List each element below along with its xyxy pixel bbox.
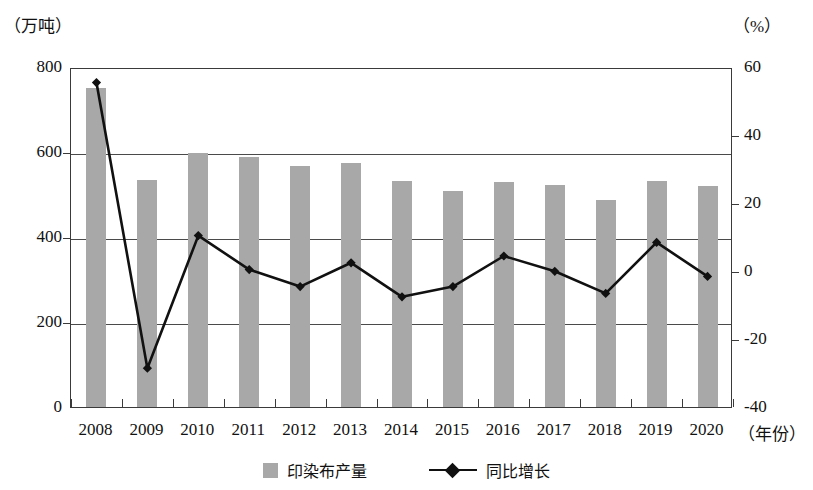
x-axis-label-2018: 2018 [579, 420, 630, 440]
x-axis-label-2014: 2014 [376, 420, 427, 440]
x-axis-label-2008: 2008 [70, 420, 121, 440]
x-tick-mark [427, 399, 428, 407]
left-tick-label-0: 0 [4, 397, 62, 417]
right-tick-label-40: 40 [744, 125, 794, 145]
x-tick-mark [71, 399, 72, 407]
x-tick-mark [631, 399, 632, 407]
legend-bar-swatch [263, 463, 278, 478]
x-axis-label-2009: 2009 [121, 420, 172, 440]
x-axis-label-2015: 2015 [426, 420, 477, 440]
x-axis-label-2016: 2016 [477, 420, 528, 440]
x-tick-mark [377, 399, 378, 407]
right-axis-unit-label: （%） [733, 12, 781, 37]
x-tick-mark [173, 399, 174, 407]
legend-item-production: 印染布产量 [263, 458, 367, 482]
x-tick-mark [122, 399, 123, 407]
growth-line-path [96, 83, 707, 369]
right-tick-mark [732, 340, 739, 341]
left-axis-unit-label: （万吨） [4, 12, 72, 37]
left-tick-label-600: 600 [4, 142, 62, 162]
x-axis-label-2019: 2019 [630, 420, 681, 440]
left-tick-label-200: 200 [4, 312, 62, 332]
x-tick-mark [224, 399, 225, 407]
right-tick-mark [732, 272, 739, 273]
right-tick-label-20: 20 [744, 193, 794, 213]
x-axis-label-2013: 2013 [325, 420, 376, 440]
legend-item-growth: 同比增长 [429, 458, 550, 482]
legend-label-growth: 同比增长 [486, 458, 550, 482]
diamond-marker-icon [445, 462, 461, 478]
diamond-marker-icon-2017: 2017: 0.5% [550, 267, 559, 276]
x-tick-mark [682, 399, 683, 407]
right-tick-label-neg20: -20 [744, 329, 794, 349]
x-tick-mark [733, 399, 734, 407]
right-tick-label-60: 60 [744, 57, 794, 77]
chart-legend: 印染布产量 同比增长 [0, 458, 813, 482]
line-series: 2008: 56%2009: -28%2010: 11%2011: 1%2012… [71, 69, 733, 409]
x-tick-mark [529, 399, 530, 407]
x-tick-mark [478, 399, 479, 407]
x-tick-mark [326, 399, 327, 407]
plot-area: 2008: 56%2009: -28%2010: 11%2011: 1%2012… [70, 68, 732, 408]
x-axis-label-2020: 2020 [681, 420, 732, 440]
legend-line-swatch [429, 463, 477, 477]
x-tick-mark [580, 399, 581, 407]
x-axis-unit-label: （年份） [738, 420, 806, 445]
left-tick-mark [63, 323, 70, 324]
left-tick-label-400: 400 [4, 227, 62, 247]
right-tick-mark [732, 204, 739, 205]
x-axis-label-2011: 2011 [223, 420, 274, 440]
x-tick-mark [275, 399, 276, 407]
legend-label-production: 印染布产量 [287, 458, 367, 482]
chart-canvas: （万吨） （%） 8006004002000 6040200-20-40 200… [0, 0, 813, 490]
x-axis-label-2017: 2017 [528, 420, 579, 440]
diamond-marker-icon-2008: 2008: 56% [92, 78, 101, 87]
right-tick-label-neg40: -40 [744, 397, 794, 417]
left-tick-label-800: 800 [4, 57, 62, 77]
right-tick-mark [732, 136, 739, 137]
diamond-marker-icon-2012: 2012: -4% [296, 282, 305, 291]
x-axis-label-2012: 2012 [274, 420, 325, 440]
left-tick-mark [63, 238, 70, 239]
right-tick-label-0: 0 [744, 261, 794, 281]
x-axis-label-2010: 2010 [172, 420, 223, 440]
left-tick-mark [63, 153, 70, 154]
diamond-marker-icon-2009: 2009: -28% [143, 364, 152, 373]
